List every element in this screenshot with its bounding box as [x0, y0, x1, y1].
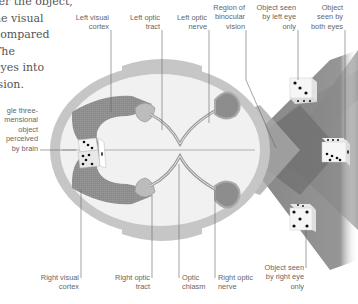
perceived-die — [78, 138, 106, 168]
right-eye — [215, 181, 240, 207]
label-left-optic-tract: Left optic tract — [120, 13, 160, 32]
label-perceived-object: gle three- mensional object perceived by… — [0, 106, 38, 153]
label-left-eye-object: Object seen by left eye only — [250, 3, 296, 31]
label-left-visual-cortex: Left visual cortex — [62, 13, 109, 32]
label-right-optic-tract: Right optic tract — [100, 273, 150, 292]
label-left-optic-nerve: Left optic nerve — [166, 13, 207, 32]
label-right-eye-object: Object seen by right eye only — [254, 263, 304, 291]
right-eye-die — [290, 204, 316, 232]
label-optic-chiasm: Optic chiasm — [182, 273, 212, 292]
left-eye — [215, 92, 240, 118]
label-both-eyes-object: Object seen by both eyes — [300, 3, 343, 31]
visual-pathway-diagram — [0, 0, 358, 304]
label-binocular-region: Region of binocular vision — [205, 3, 245, 31]
left-eye-die — [290, 78, 317, 104]
both-eyes-die — [322, 138, 350, 166]
label-right-visual-cortex: Right visual cortex — [28, 273, 79, 292]
